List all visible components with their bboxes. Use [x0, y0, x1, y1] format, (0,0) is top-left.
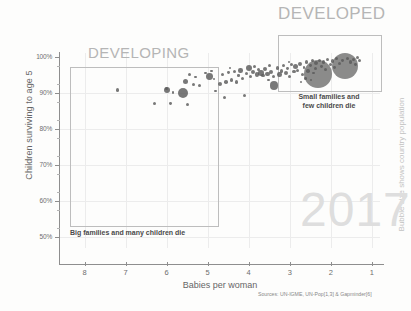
bubble-point: [172, 91, 175, 94]
y-tick-mark-minor: [57, 120, 60, 121]
x-tick-label: 5: [198, 268, 218, 277]
year-watermark: 2017: [300, 186, 411, 234]
x-tick-mark: [372, 262, 373, 266]
bubble-point: [301, 73, 304, 76]
x-axis-title: Babies per woman: [120, 280, 320, 290]
bubble-point: [354, 63, 357, 66]
bubble-point: [230, 78, 233, 81]
x-tick-label: 7: [116, 268, 136, 277]
bubble-point: [224, 80, 228, 84]
bubble-point: [186, 103, 189, 106]
sources-note: Sources: UN-IGME, UN-Pop[1,3] & Gapminde…: [258, 291, 372, 297]
x-tick-label: 1: [362, 268, 382, 277]
bubble-point: [322, 60, 325, 63]
y-tick-mark-minor: [57, 210, 60, 211]
y-tick-mark: [55, 129, 60, 130]
bubble-point: [263, 67, 267, 71]
bubble-point: [284, 71, 288, 75]
bubble-point: [153, 102, 156, 105]
bubble-point: [223, 96, 226, 99]
y-tick-mark: [55, 165, 60, 166]
bubble-point: [270, 81, 278, 89]
y-tick-mark-minor: [57, 84, 60, 85]
bubble-point: [198, 84, 201, 87]
bubble-point: [218, 82, 222, 86]
y-tick-label: 50%: [26, 233, 52, 240]
y-tick-mark: [55, 237, 60, 238]
bubble-point: [272, 75, 275, 78]
developed-caption-line1: Small families and: [298, 93, 359, 100]
x-tick-label: 6: [157, 268, 177, 277]
bubble-point: [194, 76, 197, 79]
bubble-point: [352, 58, 355, 61]
developing-heading: DEVELOPING: [88, 44, 190, 61]
developed-caption: Small families and few children die: [278, 93, 380, 111]
bubble-point: [304, 77, 307, 80]
y-tick-mark-minor: [57, 156, 60, 157]
bubble-point: [241, 77, 244, 80]
x-tick-mark: [290, 262, 291, 266]
bubble-point: [269, 70, 273, 74]
bubble-point: [318, 59, 321, 62]
bubble-point: [276, 66, 280, 70]
bubble-point: [178, 88, 188, 98]
bubble-point: [249, 75, 252, 78]
y-tick-mark: [55, 201, 60, 202]
y-tick-mark-minor: [57, 192, 60, 193]
gridline: [249, 53, 250, 248]
y-tick-mark-minor: [57, 138, 60, 139]
bubble-point: [286, 67, 289, 70]
bubble-point: [237, 74, 240, 77]
x-tick-mark: [331, 262, 332, 266]
x-tick-mark: [167, 262, 168, 266]
y-tick-mark-minor: [57, 174, 60, 175]
developed-heading: DEVELOPED: [278, 4, 386, 24]
bubble-point: [346, 57, 349, 60]
bubble-point: [221, 73, 224, 76]
bubble-point: [253, 65, 256, 68]
y-axis-title: Children surviving to age 5: [24, 50, 34, 200]
bubble-point: [227, 71, 230, 74]
y-tick-mark-minor: [57, 228, 60, 229]
x-tick-mark: [249, 262, 250, 266]
x-tick-label: 3: [280, 268, 300, 277]
y-tick-mark-minor: [57, 66, 60, 67]
bubble-point: [188, 73, 191, 76]
bubble-point: [245, 72, 248, 75]
bubble-point: [267, 79, 270, 82]
bubble-point: [349, 60, 352, 63]
developing-caption: Big families and many children die: [70, 229, 240, 238]
y-tick-mark: [55, 93, 60, 94]
bubble-point: [229, 67, 231, 69]
x-tick-label: 8: [75, 268, 95, 277]
x-tick-mark: [126, 262, 127, 266]
developed-caption-line2: few children die: [303, 102, 356, 109]
x-tick-label: 2: [321, 268, 341, 277]
x-axis-line: [59, 264, 384, 265]
x-tick-mark: [208, 262, 209, 266]
y-tick-mark-minor: [57, 102, 60, 103]
developing-region-box: [70, 67, 219, 227]
bubble-point: [238, 68, 242, 72]
bubble-point: [233, 70, 236, 73]
bubble-point: [235, 80, 239, 84]
x-tick-mark: [85, 262, 86, 266]
bubble-point: [243, 94, 246, 97]
bubble-point: [268, 64, 271, 67]
bubble-point: [280, 69, 283, 72]
bubble-point: [277, 72, 281, 76]
x-tick-label: 4: [239, 268, 259, 277]
y-tick-mark: [55, 57, 60, 58]
bubble-point: [192, 83, 195, 86]
